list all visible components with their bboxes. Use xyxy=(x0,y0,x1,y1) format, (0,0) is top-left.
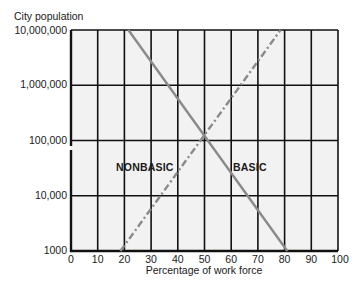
x-tick-100: 100 xyxy=(331,253,349,265)
nonbasic-label: NONBASIC xyxy=(116,161,174,173)
chart-plot-area xyxy=(0,0,362,289)
basic-label: BASIC xyxy=(233,161,267,173)
x-axis-title: Percentage of work force xyxy=(146,264,263,276)
x-tick-90: 90 xyxy=(305,253,317,265)
x-tick-20: 20 xyxy=(119,253,131,265)
x-tick-0: 0 xyxy=(68,253,74,265)
x-tick-80: 80 xyxy=(279,253,291,265)
x-tick-10: 10 xyxy=(92,253,104,265)
